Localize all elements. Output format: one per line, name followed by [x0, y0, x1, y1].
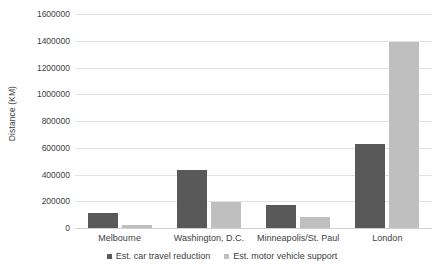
axis-baseline: 0: [75, 228, 432, 229]
x-axis-category-label: London: [372, 231, 402, 245]
legend-swatch-icon: [224, 254, 229, 259]
y-axis-tick-label: 600000: [42, 144, 70, 153]
legend-item[interactable]: Est. motor vehicle support: [224, 252, 337, 261]
y-axis-tick-label: 200000: [42, 197, 70, 206]
bar: [300, 217, 330, 228]
bar: [211, 202, 241, 228]
y-axis-tick-label: 1000000: [37, 90, 70, 99]
bar: [177, 170, 207, 228]
plot-area: 0200000400000600000800000100000012000001…: [75, 14, 432, 228]
legend-item[interactable]: Est. car travel reduction: [107, 252, 211, 261]
bars-layer: [75, 14, 432, 228]
x-axis-category-label: Washington, D.C.: [174, 231, 244, 245]
y-axis-tick-label: 800000: [42, 117, 70, 126]
chart-legend: Est. car travel reductionEst. motor vehi…: [0, 252, 444, 261]
legend-label: Est. car travel reduction: [116, 252, 211, 261]
y-axis-tick-label: 1400000: [37, 37, 70, 46]
y-axis-tick-label: 1200000: [37, 63, 70, 72]
legend-label: Est. motor vehicle support: [233, 252, 337, 261]
x-axis-category-labels: MelbourneWashington, D.C.Minneapolis/St.…: [75, 231, 432, 247]
bar: [389, 42, 419, 228]
bar-chart: Distance (KM) 02000004000006000008000001…: [0, 0, 444, 277]
y-axis-tick-label: 0: [65, 224, 70, 233]
x-axis-category-label: Melbourne: [98, 231, 141, 245]
x-axis-category-label: Minneapolis/St. Paul: [257, 231, 339, 245]
y-axis-tick-label: 1600000: [37, 10, 70, 19]
y-axis-title: Distance (KM): [2, 0, 22, 228]
bar: [266, 205, 296, 228]
bar: [88, 213, 118, 228]
y-axis-title-label: Distance (KM): [7, 86, 17, 141]
bar: [355, 144, 385, 228]
bar: [122, 225, 152, 228]
legend-swatch-icon: [107, 254, 112, 259]
y-axis-tick-label: 400000: [42, 170, 70, 179]
